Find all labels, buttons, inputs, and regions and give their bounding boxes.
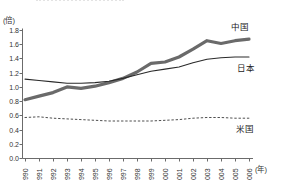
cropped-text-remnant	[36, 0, 124, 1]
y-tick-label: 1.8	[9, 27, 19, 34]
x-tick-label: 2006	[246, 168, 253, 180]
x-tick-label: 1999	[148, 168, 155, 180]
x-tick-label: 2003	[204, 168, 211, 180]
x-tick-label: 2000	[162, 168, 169, 180]
y-tick-label: 0.4	[9, 127, 19, 134]
x-tick-label: 1997	[120, 168, 127, 180]
line-chart: 0.00.20.40.60.81.01.21.41.61.81990199119…	[0, 0, 281, 180]
y-tick-label: 1.6	[9, 41, 19, 48]
y-tick-label: 1.0	[9, 84, 19, 91]
x-tick-label: 1993	[64, 168, 71, 180]
y-tick-label: 0.0	[9, 155, 19, 162]
x-tick-label: 1994	[78, 168, 85, 180]
x-tick-label: 1995	[92, 168, 99, 180]
y-tick-label: 0.8	[9, 98, 19, 105]
x-tick-label: 2004	[218, 168, 225, 180]
x-tick-label: 1996	[106, 168, 113, 180]
series-line-china	[25, 39, 249, 99]
x-tick-label: 2005	[232, 168, 239, 180]
series-line-usa	[25, 117, 249, 121]
chart-container: (倍) 0.00.20.40.60.81.01.21.41.61.8199019…	[0, 0, 281, 180]
series-label-japan: 日本	[237, 63, 255, 73]
x-tick-label: 2001	[176, 168, 183, 180]
y-tick-label: 0.6	[9, 112, 19, 119]
series-label-china: 中国	[231, 22, 249, 32]
y-tick-label: 0.2	[9, 141, 19, 148]
x-tick-label: 2002	[190, 168, 197, 180]
axes	[23, 29, 254, 159]
y-axis-unit-label: (倍)	[3, 14, 15, 25]
x-tick-label: 1992	[50, 168, 57, 180]
y-tick-label: 1.4	[9, 55, 19, 62]
x-tick-label: 1998	[134, 168, 141, 180]
x-axis-unit-label: (年)	[255, 163, 267, 174]
y-tick-label: 1.2	[9, 70, 19, 77]
x-tick-label: 1991	[36, 168, 43, 180]
x-tick-label: 1990	[22, 168, 29, 180]
series-label-usa: 米国	[236, 124, 254, 134]
